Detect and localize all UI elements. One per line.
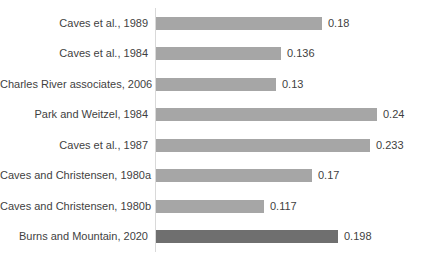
category-label: Park and Weitzel, 1984 <box>0 109 155 120</box>
chart-row: Caves and Christensen, 1980b0.117 <box>0 191 421 222</box>
bar <box>156 169 312 182</box>
chart-row: Park and Weitzel, 19840.24 <box>0 100 421 131</box>
chart-row: Caves et al., 19870.233 <box>0 130 421 161</box>
plot-area: 0.18 <box>155 8 421 39</box>
plot-area: 0.233 <box>155 130 421 161</box>
category-label: Burns and Mountain, 2020 <box>0 231 155 242</box>
value-label: 0.233 <box>376 140 404 151</box>
bar <box>156 47 281 60</box>
value-label: 0.18 <box>328 18 349 29</box>
category-label: Caves and Christensen, 1980b <box>0 201 155 212</box>
category-label: Caves et al., 1989 <box>0 18 155 29</box>
value-label: 0.198 <box>344 231 372 242</box>
category-label: Charles River associates, 2006 <box>0 79 155 90</box>
value-label: 0.24 <box>383 109 404 120</box>
value-label: 0.17 <box>318 170 339 181</box>
bar-chart: Caves et al., 19890.18Caves et al., 1984… <box>0 0 421 257</box>
chart-row: Burns and Mountain, 20200.198 <box>0 222 421 253</box>
bar <box>156 230 338 243</box>
plot-area: 0.13 <box>155 69 421 100</box>
value-label: 0.117 <box>270 201 297 212</box>
value-label: 0.136 <box>287 48 315 59</box>
plot-area: 0.198 <box>155 222 421 253</box>
chart-row: Caves and Christensen, 1980a0.17 <box>0 161 421 192</box>
category-label: Caves et al., 1984 <box>0 48 155 59</box>
chart-rows: Caves et al., 19890.18Caves et al., 1984… <box>0 8 421 252</box>
chart-row: Caves et al., 19840.136 <box>0 39 421 70</box>
value-label: 0.13 <box>282 79 303 90</box>
plot-area: 0.17 <box>155 161 421 192</box>
category-label: Caves et al., 1987 <box>0 140 155 151</box>
bar <box>156 139 370 152</box>
plot-area: 0.117 <box>155 191 421 222</box>
bar <box>156 78 276 91</box>
bar <box>156 17 322 30</box>
category-label: Caves and Christensen, 1980a <box>0 170 155 181</box>
bar <box>156 200 264 213</box>
chart-row: Caves et al., 19890.18 <box>0 8 421 39</box>
plot-area: 0.24 <box>155 100 421 131</box>
chart-row: Charles River associates, 20060.13 <box>0 69 421 100</box>
plot-area: 0.136 <box>155 39 421 70</box>
bar <box>156 108 377 121</box>
